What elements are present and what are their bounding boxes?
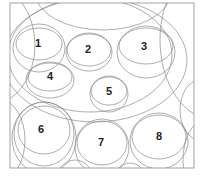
diagram-canvas: 1 2 3 4 5 6 7 8 (0, 0, 205, 177)
label-6: 6 (38, 123, 44, 135)
cell-labels: 1 2 3 4 5 6 7 8 (35, 37, 162, 148)
label-1: 1 (35, 37, 41, 49)
label-3: 3 (141, 40, 147, 52)
label-7: 7 (98, 136, 104, 148)
outline-shapes (0, 0, 205, 177)
label-2: 2 (85, 43, 91, 55)
numbered-circles-diagram: 1 2 3 4 5 6 7 8 (0, 0, 205, 177)
label-5: 5 (106, 85, 112, 97)
label-8: 8 (156, 130, 162, 142)
label-4: 4 (47, 70, 54, 82)
